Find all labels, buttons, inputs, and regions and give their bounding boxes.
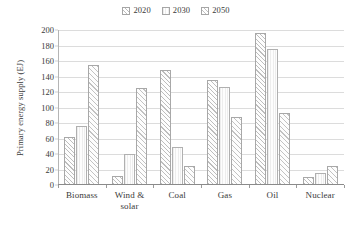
bar-gas-2020[interactable] (207, 80, 218, 185)
legend-item-2030[interactable]: 2030 (162, 6, 190, 15)
legend-label: 2030 (173, 6, 190, 15)
legend-item-2050[interactable]: 2050 (201, 6, 229, 15)
bar-oil-2050[interactable] (279, 113, 290, 185)
y-tick-label: 100 (41, 103, 54, 112)
bar-group-oil (249, 30, 297, 185)
y-tick-label: 180 (41, 41, 54, 50)
y-tick-label: 140 (41, 72, 54, 81)
legend-swatch-icon-2030 (162, 7, 170, 15)
y-tick-label: 40 (46, 150, 55, 159)
bar-biomass-2020[interactable] (64, 137, 75, 185)
x-tick-mark (201, 185, 202, 188)
bar-gas-2030[interactable] (219, 87, 230, 185)
y-tick-label: 160 (41, 57, 54, 66)
bar-wind-solar-2050[interactable] (136, 88, 147, 185)
x-axis-label-oil: Oil (249, 190, 297, 212)
bar-coal-2050[interactable] (184, 166, 195, 185)
legend-swatch-icon-2050 (201, 7, 209, 15)
bar-coal-2030[interactable] (172, 147, 183, 185)
y-tick-label: 20 (46, 165, 55, 174)
x-tick-mark (58, 185, 59, 188)
legend-label: 2050 (212, 6, 229, 15)
y-tick-label: 200 (41, 26, 54, 35)
x-axis-label-wind-solar: Wind & solar (106, 190, 154, 212)
bar-oil-2020[interactable] (255, 33, 266, 185)
bar-group-gas (201, 30, 249, 185)
bar-group-coal (153, 30, 201, 185)
y-tick-label: 60 (46, 134, 55, 143)
bar-group-biomass (58, 30, 106, 185)
plot-area (58, 30, 344, 185)
y-tick-label: 0 (50, 181, 54, 190)
x-axis-label-coal: Coal (153, 190, 201, 212)
y-tick-label: 120 (41, 88, 54, 97)
x-axis-labels: BiomassWind & solarCoalGasOilNuclear (58, 190, 344, 212)
bar-oil-2030[interactable] (267, 49, 278, 185)
bar-biomass-2050[interactable] (88, 65, 99, 185)
y-tick-label: 80 (46, 119, 55, 128)
bar-coal-2020[interactable] (160, 70, 171, 185)
legend-item-2020[interactable]: 2020 (122, 6, 150, 15)
x-axis-label-biomass: Biomass (58, 190, 106, 212)
legend-swatch-icon-2020 (122, 7, 130, 15)
bar-wind-solar-2030[interactable] (124, 154, 135, 185)
x-axis-label-gas: Gas (201, 190, 249, 212)
x-axis-label-nuclear: Nuclear (296, 190, 344, 212)
y-axis-title: Primary energy supply (EJ) (14, 30, 26, 185)
x-tick-mark (296, 185, 297, 188)
x-tick-mark (344, 185, 345, 188)
bar-gas-2050[interactable] (231, 117, 242, 185)
x-tick-mark (249, 185, 250, 188)
x-axis-tick-marks (58, 185, 344, 189)
bar-group-nuclear (296, 30, 344, 185)
bar-biomass-2030[interactable] (76, 126, 87, 185)
y-axis-line (58, 30, 59, 185)
bar-groups (58, 30, 344, 185)
bar-group-wind-solar (106, 30, 154, 185)
y-axis-title-label: Primary energy supply (EJ) (15, 59, 25, 155)
legend-label: 2020 (133, 6, 150, 15)
chart-legend: 202020302050 (0, 6, 352, 15)
y-axis-tick-labels: 020406080100120140160180200 (28, 30, 54, 185)
x-tick-mark (153, 185, 154, 188)
bar-chart: 202020302050 Primary energy supply (EJ) … (0, 0, 352, 234)
bar-nuclear-2050[interactable] (327, 166, 338, 185)
x-tick-mark (106, 185, 107, 188)
